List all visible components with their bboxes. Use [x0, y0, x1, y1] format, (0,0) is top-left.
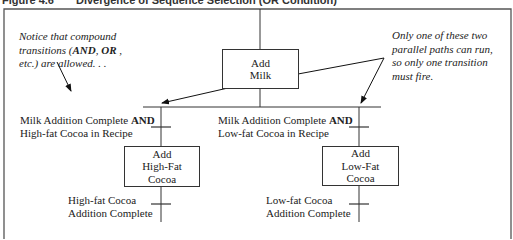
right-note-arrow-left [162, 88, 228, 103]
transition-label-highfat-done: High-fat Cocoa Addition Complete [68, 194, 153, 220]
step-add-low-fat-cocoa: Add Low-Fat Cocoa [322, 146, 399, 186]
transition-label-highfat-condition: Milk Addition Complete AND High-fat Coco… [20, 114, 155, 140]
transition-label-lowfat-done: Low-fat Cocoa Addition Complete [266, 194, 351, 220]
parallel-paths-note: Only one of these two parallel paths can… [392, 29, 493, 83]
step-add-milk: Add Milk [222, 49, 299, 89]
transition-label-lowfat-condition: Milk Addition Complete AND Low-fat Cocoa… [218, 114, 353, 140]
compound-transitions-note: Notice that compound transitions (AND, O… [19, 30, 122, 71]
step-add-high-fat-cocoa: Add High-Fat Cocoa [124, 146, 200, 187]
right-note-arrow-right [361, 58, 384, 103]
